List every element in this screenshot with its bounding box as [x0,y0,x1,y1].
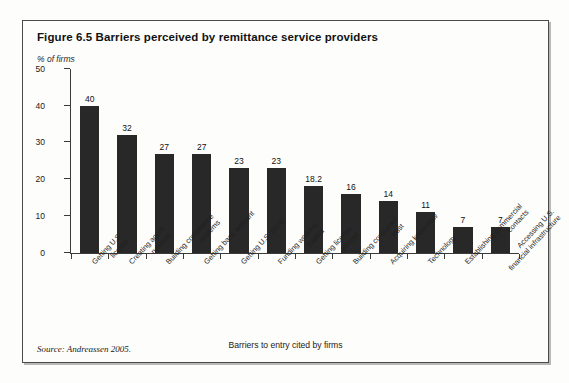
category-label-slot: Acquiring know-how [370,259,407,334]
bar-value-label: 16 [346,182,355,192]
category-label-slot: Technology [407,259,444,334]
bar-slot: 27 [146,69,183,253]
category-label-slot: Building consumertrust [332,259,369,334]
y-axis-tick [64,215,70,216]
figure-title: Figure 6.5 Barriers perceived by remitta… [37,31,378,43]
bar-value-label: 27 [160,142,169,152]
y-axis-tick-label: 30 [36,137,45,147]
x-axis-category-labels: Getting U.S.licenseCreating agentnetwork… [71,259,519,334]
bar-series: 40322727232318.216141177 [71,69,519,253]
y-axis-tick [64,68,70,69]
y-axis-tick [64,252,70,253]
bar-value-label: 27 [197,142,206,152]
category-label-slot: Getting U.S.license [71,259,108,334]
bar-value-label: 40 [85,94,94,104]
bar-slot: 16 [332,69,369,253]
category-label-slot: Getting bank account [183,259,220,334]
y-axis-tick [64,178,70,179]
bar-slot: 32 [108,69,145,253]
bar-slot: 40 [71,69,108,253]
y-axis-tick [64,141,70,142]
y-axis-tick [64,105,70,106]
category-label-slot: Accessing U.S.financial infrastructure [482,259,519,334]
category-label-slot: Building compliancesystems [146,259,183,334]
category-label-slot: Funding workingcapital [258,259,295,334]
bar-value-label: 11 [421,200,430,210]
y-axis-tick-label: 50 [36,64,45,74]
y-axis-tick-label: 40 [36,101,45,111]
plot-area: 01020304050 40322727232318.216141177 [48,69,519,254]
category-label-slot: Establishing commercialcontacts [444,259,481,334]
bar-value-label: 7 [461,215,466,225]
y-axis-tick-label: 20 [36,174,45,184]
bar-value-label: 18.2 [305,174,322,184]
bar-slot: 7 [444,69,481,253]
bar-value-label: 23 [272,156,281,166]
category-label-slot: Getting U.S. bond [220,259,257,334]
bar-value-label: 32 [122,123,131,133]
y-axis-tick-label: 0 [40,248,45,258]
source-note: Source: Andreassen 2005. [37,344,131,354]
bar-value-label: 14 [384,189,393,199]
bar: 40 [80,106,99,253]
y-axis-tick-label: 10 [36,211,45,221]
category-label-slot: Creating agentnetwork [108,259,145,334]
y-axis-unit-label: % of firms [37,54,75,64]
category-label-slot: Getting licenseabroad [295,259,332,334]
bar-value-label: 23 [234,156,243,166]
figure-box: Figure 6.5 Barriers perceived by remitta… [22,20,549,363]
